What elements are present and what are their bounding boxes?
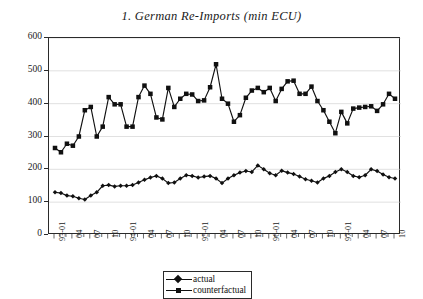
legend-item-actual[interactable]: actual	[166, 274, 246, 285]
data-point	[196, 175, 201, 180]
legend-label-counterfactual: counterfactual	[192, 285, 246, 296]
data-point	[357, 105, 362, 110]
data-point	[166, 86, 171, 91]
y-tick-label: 0	[8, 229, 42, 239]
legend-item-counterfactual[interactable]: counterfactual	[166, 285, 246, 296]
x-tick-label: 04	[219, 230, 228, 238]
data-point	[184, 173, 189, 178]
x-tick-label: 10	[326, 230, 335, 238]
data-point	[297, 92, 302, 97]
data-point	[89, 105, 94, 110]
data-point	[256, 86, 260, 91]
data-point	[250, 88, 255, 93]
data-point	[333, 131, 338, 136]
data-point	[77, 134, 82, 139]
data-point	[303, 177, 308, 182]
data-point	[142, 178, 147, 183]
data-point	[267, 86, 272, 91]
data-point	[262, 90, 267, 95]
data-point	[220, 96, 225, 101]
data-point	[124, 184, 129, 189]
data-point	[232, 173, 237, 178]
data-point	[285, 170, 290, 175]
plot-area	[48, 37, 400, 234]
data-point	[309, 179, 314, 184]
series-counterfactual	[53, 62, 398, 154]
series-actual	[53, 163, 398, 202]
y-tick-mark	[44, 70, 48, 71]
x-tick-label: 95-01	[201, 222, 210, 241]
data-point	[112, 102, 117, 107]
data-point	[83, 108, 88, 113]
y-tick-label: 400	[8, 98, 42, 108]
x-tick-label: 10	[111, 230, 120, 238]
data-point	[160, 117, 165, 122]
data-point	[118, 184, 123, 189]
y-tick-label: 200	[8, 163, 42, 173]
x-tick-label: 94-01	[129, 222, 138, 241]
data-point	[345, 121, 350, 126]
x-tick-label: 10	[183, 230, 192, 238]
data-point	[65, 193, 70, 198]
legend-label-actual: actual	[192, 274, 215, 285]
data-point	[106, 183, 111, 188]
data-point	[53, 146, 58, 151]
data-point	[327, 119, 332, 124]
chart-title: 1. German Re-Imports (min ECU)	[0, 9, 423, 24]
x-tick-label: 07	[93, 230, 102, 238]
data-point	[393, 96, 398, 101]
series-line-actual	[55, 165, 395, 199]
data-point	[285, 79, 290, 84]
data-point	[202, 174, 207, 179]
data-point	[178, 96, 183, 101]
y-tick-label: 600	[8, 32, 42, 42]
data-point	[136, 95, 141, 100]
data-point	[339, 110, 344, 115]
y-tick-mark	[44, 201, 48, 202]
data-point	[369, 104, 374, 109]
data-point	[142, 83, 147, 88]
data-point	[190, 174, 195, 179]
data-point	[59, 191, 64, 196]
data-point	[106, 95, 111, 100]
y-tick-mark	[44, 37, 48, 38]
x-tick-label: 07	[308, 230, 317, 238]
data-point	[196, 99, 201, 104]
x-tick-label: 97-01	[344, 222, 353, 241]
x-tick-label: 07	[165, 230, 174, 238]
data-point	[238, 113, 243, 118]
data-point	[100, 124, 105, 128]
chart-legend: actual counterfactual	[163, 271, 252, 299]
data-point	[393, 176, 398, 181]
data-point	[214, 62, 219, 66]
data-point	[303, 92, 308, 97]
data-point	[136, 180, 141, 185]
x-tick-label: 07	[237, 230, 246, 238]
y-tick-label: 300	[8, 131, 42, 141]
data-point	[95, 134, 100, 139]
data-point	[154, 115, 159, 120]
data-point	[351, 106, 356, 111]
data-point	[339, 167, 344, 172]
legend-marker-diamond-icon	[166, 274, 192, 285]
data-point	[238, 170, 243, 175]
x-tick-label: 04	[290, 230, 299, 238]
x-tick-label: 04	[147, 230, 156, 238]
data-point	[357, 175, 362, 180]
data-point	[172, 105, 177, 110]
y-tick-label: 100	[8, 196, 42, 206]
data-point	[148, 175, 153, 180]
data-point	[59, 150, 64, 155]
data-point	[363, 105, 368, 110]
data-point	[65, 141, 70, 146]
data-point	[279, 87, 284, 92]
data-point	[232, 119, 237, 124]
y-tick-mark	[44, 136, 48, 137]
y-tick-mark	[44, 103, 48, 104]
data-point	[291, 78, 296, 83]
data-point	[148, 92, 153, 97]
data-point	[387, 92, 392, 97]
data-point	[118, 102, 123, 107]
data-point	[226, 101, 231, 106]
